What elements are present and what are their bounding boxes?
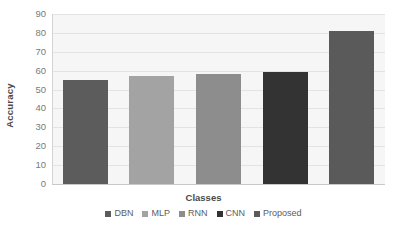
legend-swatch-icon [254, 211, 260, 217]
legend-item-rnn[interactable]: RNN [179, 209, 208, 218]
y-axis-tick-labels: 0102030405060708090 [20, 8, 50, 188]
y-axis-tick-label: 50 [35, 85, 46, 95]
legend-swatch-icon [105, 211, 111, 217]
bar-dbn [63, 80, 108, 184]
y-axis-tick-label: 40 [35, 104, 46, 114]
bar-proposed [329, 31, 374, 184]
legend-swatch-icon [142, 211, 148, 217]
bar-chart: Accuracy 0102030405060708090 Classes DBN… [0, 0, 407, 237]
y-axis-tick-label: 20 [35, 141, 46, 151]
legend-label: Proposed [263, 209, 302, 218]
y-axis-tick-label: 10 [35, 160, 46, 170]
y-axis-title-label: Accuracy [4, 83, 15, 127]
y-axis-title: Accuracy [2, 50, 16, 160]
legend-label: CNN [226, 209, 246, 218]
legend-label: RNN [188, 209, 208, 218]
x-axis-title-label: Classes [186, 192, 222, 203]
x-axis-title: Classes [0, 192, 407, 203]
y-axis-tick-label: 0 [41, 179, 46, 189]
legend-item-cnn[interactable]: CNN [217, 209, 246, 218]
y-axis-tick-label: 80 [35, 28, 46, 38]
legend-item-mlp[interactable]: MLP [142, 209, 170, 218]
bar-rnn [196, 74, 241, 184]
y-axis-tick-label: 30 [35, 123, 46, 133]
legend-label: DBN [114, 209, 133, 218]
y-axis-tick-label: 70 [35, 47, 46, 57]
bar-mlp [129, 76, 174, 184]
bar-cnn [263, 72, 308, 184]
y-axis-line [52, 14, 53, 185]
y-axis-tick-label: 90 [35, 9, 46, 19]
x-axis-line [52, 184, 385, 185]
chart-legend: DBNMLPRNNCNNProposed [0, 209, 407, 218]
legend-swatch-icon [179, 211, 185, 217]
legend-item-dbn[interactable]: DBN [105, 209, 133, 218]
plot-area [52, 14, 385, 184]
legend-swatch-icon [217, 211, 223, 217]
y-axis-tick-label: 60 [35, 66, 46, 76]
legend-item-proposed[interactable]: Proposed [254, 209, 302, 218]
bars-group [52, 14, 385, 184]
legend-label: MLP [151, 209, 170, 218]
